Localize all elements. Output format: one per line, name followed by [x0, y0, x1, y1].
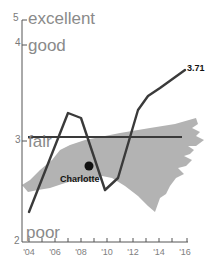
x-tick-label-10: '10: [101, 248, 113, 257]
x-tick-label-04: '04: [23, 248, 35, 257]
category-label-excellent: excellent: [28, 10, 95, 27]
x-tick-label-14: '14: [153, 248, 165, 257]
y-tick-label-3: 3: [15, 135, 21, 145]
end-value-label: 3.71: [187, 64, 205, 73]
category-label-poor: poor: [26, 224, 60, 241]
y-tick-label-4: 4: [15, 38, 21, 48]
x-tick-label-06: '06: [49, 248, 61, 257]
city-label-charlotte: Charlotte: [60, 175, 100, 184]
y-tick-label-5: 5: [13, 13, 19, 23]
x-tick-label-12: '12: [127, 248, 139, 257]
charlotte-point: [85, 162, 94, 171]
y-tick-label-2: 2: [14, 236, 20, 246]
category-label-good: good: [28, 37, 66, 54]
x-tick-label-08: '08: [75, 248, 87, 257]
category-label-fair: fair: [28, 133, 52, 150]
x-tick-label-16: '16: [179, 248, 191, 257]
